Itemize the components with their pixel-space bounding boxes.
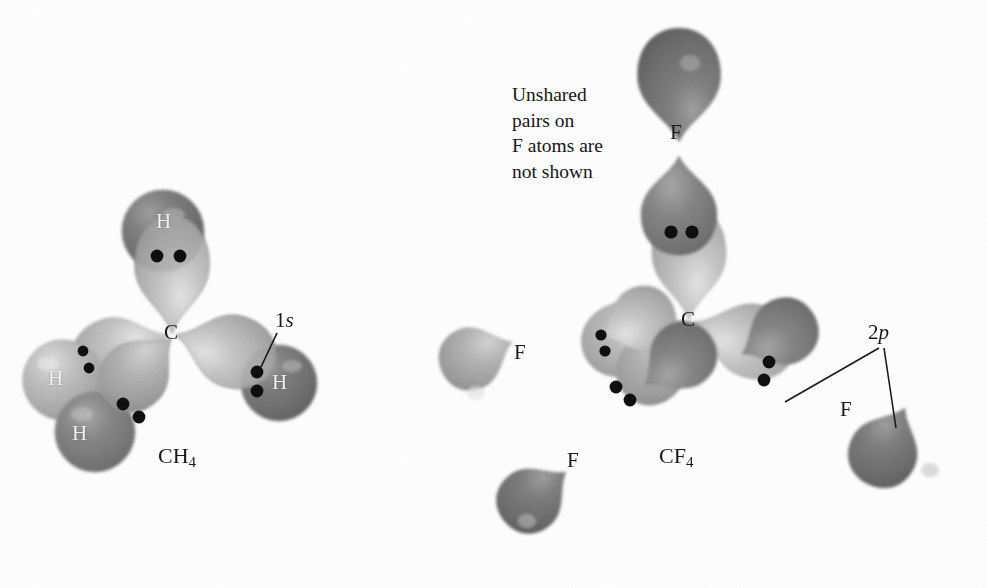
cf4-formula-text: CF xyxy=(659,443,686,468)
f-right-outer-lobe xyxy=(837,393,936,499)
orbital-label-2p-prefix: 2 xyxy=(868,320,879,344)
ch4-ligand-label-top: H xyxy=(156,211,171,232)
cf4-formula-subscript: 4 xyxy=(686,454,693,470)
orbital-label-1s: 1s xyxy=(275,308,294,333)
ch4-ligand-label-right: H xyxy=(272,372,287,393)
orbital-label-2p: 2p xyxy=(868,320,889,345)
cf4-ligand-label-lowerleft: F xyxy=(567,450,579,471)
electron-dot xyxy=(251,385,264,398)
electron-dot xyxy=(599,345,610,356)
cf4-formula: CF4 xyxy=(659,443,693,471)
orbital-label-1s-prefix: 1 xyxy=(275,308,286,332)
orbital-label-1s-italic: s xyxy=(286,308,294,332)
f-top-inner-lobe xyxy=(641,156,717,255)
electron-dot xyxy=(758,374,771,387)
cf4-ligand-label-top: F xyxy=(670,122,682,143)
f-top-outer-highlight xyxy=(680,55,700,71)
ch4-ligand-label-lowerleft: H xyxy=(72,423,87,444)
electron-dot xyxy=(151,250,164,263)
ch4-formula-subscript: 4 xyxy=(189,454,196,470)
cf4-ligand-label-right: F xyxy=(840,399,852,420)
cf4-ligand-label-left: F xyxy=(514,342,526,363)
electron-dot xyxy=(685,225,698,238)
ch4-central-atom-label: C xyxy=(164,322,178,343)
orbital-label-2p-italic: p xyxy=(879,320,890,344)
electron-dot xyxy=(84,363,95,374)
h-sphere-lowerleft-highlight xyxy=(71,407,93,421)
cf4-central-atom-label: C xyxy=(681,309,695,330)
f-lowerleft-outer-highlight xyxy=(518,514,536,528)
sp3-overlap-up xyxy=(135,216,209,333)
cf4-fluorine-right xyxy=(726,286,939,499)
electron-dot xyxy=(251,366,264,379)
ch4-formula: CH4 xyxy=(158,443,196,471)
electron-dot xyxy=(763,356,776,369)
unshared-pairs-note: Unshared pairs on F atoms are not shown xyxy=(512,82,603,185)
f-left-outer-highlight xyxy=(467,386,485,400)
figure-canvas xyxy=(0,0,987,588)
electron-dot xyxy=(117,398,130,411)
electron-dot xyxy=(78,346,89,357)
electron-dot xyxy=(174,250,187,263)
electron-dot xyxy=(664,225,677,238)
electron-dot xyxy=(595,329,606,340)
electron-dot xyxy=(624,394,637,407)
f-right-outer-highlight xyxy=(921,463,939,477)
ch4-formula-text: CH xyxy=(158,443,189,468)
ch4-ligand-label-left: H xyxy=(48,368,63,389)
electron-dot xyxy=(133,411,146,424)
electron-dot xyxy=(610,381,623,394)
orbital-overlap-figure: C H H H H 1s CH4 Unshared pairs on F ato… xyxy=(0,0,987,588)
